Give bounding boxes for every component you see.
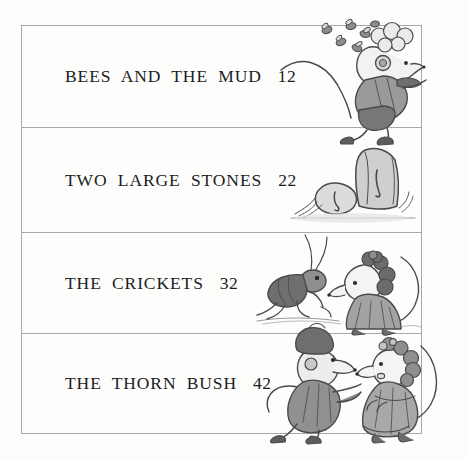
table-row[interactable]: THE CRICKETS32 [22, 233, 421, 334]
two-stones-illustration [289, 134, 419, 226]
cricket-and-mouse-illustration [251, 229, 427, 333]
table-row[interactable]: THE THORN BUSH42 [22, 334, 421, 433]
toc-entry-page-number: 12 [278, 66, 297, 86]
toc-entry-title: BEES AND THE MUD [65, 66, 262, 86]
table-of-contents: BEES AND THE MUD12 [21, 25, 422, 434]
mouse-chased-by-bees-illustration [279, 14, 429, 142]
toc-entry-title: THE CRICKETS [65, 273, 204, 293]
toc-entry-text: BEES AND THE MUD12 [22, 66, 296, 87]
toc-entry-title: TWO LARGE STONES [65, 170, 262, 190]
toc-entry-text: THE THORN BUSH42 [22, 373, 272, 394]
toc-entry-text: TWO LARGE STONES22 [22, 170, 297, 191]
toc-entry-page-number: 22 [278, 170, 297, 190]
toc-entry-text: THE CRICKETS32 [22, 273, 238, 294]
toc-entry-title: THE THORN BUSH [65, 373, 237, 393]
table-row[interactable]: TWO LARGE STONES22 [22, 128, 421, 233]
toc-entry-page-number: 42 [253, 373, 272, 393]
page-canvas: BEES AND THE MUD12 [0, 0, 467, 460]
two-mice-talking-illustration [263, 316, 443, 444]
table-row[interactable]: BEES AND THE MUD12 [22, 26, 421, 128]
toc-entry-page-number: 32 [220, 273, 239, 293]
